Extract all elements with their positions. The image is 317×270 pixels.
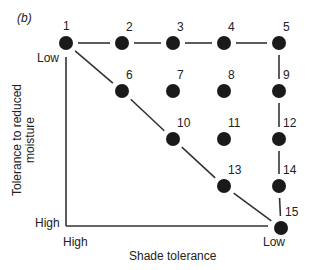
node-10 <box>166 132 180 146</box>
y-axis-top-label: Low <box>37 52 59 64</box>
node-label-3: 3 <box>177 21 184 33</box>
node-2 <box>115 36 129 50</box>
edge-1-6 <box>75 51 113 83</box>
node-label-8: 8 <box>228 69 235 81</box>
panel-label: (b) <box>17 12 32 24</box>
edge-6-10 <box>131 99 165 131</box>
x-axis-right-label: Low <box>263 236 285 248</box>
node-13 <box>217 179 231 193</box>
node-label-11: 11 <box>228 117 240 129</box>
x-axis-title: Shade tolerance <box>129 250 216 262</box>
node-label-12: 12 <box>283 117 296 129</box>
edge-14-15 <box>280 198 281 216</box>
node-label-2: 2 <box>126 21 133 33</box>
node-5 <box>272 36 286 50</box>
node-11 <box>217 132 231 146</box>
succession-diagram: (b) Low High Tolerance to reduced moistu… <box>0 0 317 270</box>
node-6 <box>115 84 129 98</box>
node-label-7: 7 <box>177 69 184 81</box>
y-axis-bottom-label: High <box>35 217 60 229</box>
node-label-14: 14 <box>283 164 296 176</box>
edge-10-13 <box>182 147 215 178</box>
node-label-5: 5 <box>283 21 290 33</box>
x-axis-left-label: High <box>63 236 88 248</box>
node-label-13: 13 <box>228 164 241 176</box>
node-label-1: 1 <box>63 20 70 32</box>
y-axis-title-line2: moisture <box>24 84 37 196</box>
node-1 <box>59 36 73 50</box>
node-label-10: 10 <box>177 117 190 129</box>
node-label-9: 9 <box>283 69 290 81</box>
node-14 <box>272 179 286 193</box>
node-label-6: 6 <box>126 69 133 81</box>
node-3 <box>166 36 180 50</box>
node-4 <box>217 36 231 50</box>
node-8 <box>217 84 231 98</box>
node-label-15: 15 <box>285 206 298 218</box>
node-7 <box>166 84 180 98</box>
node-9 <box>272 84 286 98</box>
edge-13-15 <box>234 193 272 221</box>
node-label-4: 4 <box>228 21 235 33</box>
node-12 <box>272 132 286 146</box>
node-15 <box>274 221 288 235</box>
